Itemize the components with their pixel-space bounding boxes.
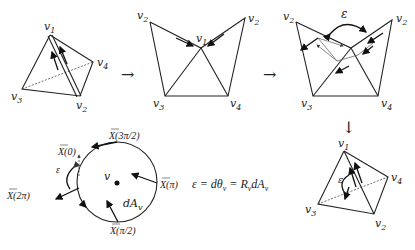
svg-text:v4: v4 [391,171,402,186]
svg-text:v1: v1 [338,137,349,152]
svg-text:v: v [104,170,111,183]
svg-text:v2: v2 [283,10,294,25]
svg-text:X(π/2): X(π/2) [109,225,136,237]
svg-text:v2: v2 [396,12,407,27]
deficit-angle-arc-icon [330,24,366,34]
arrow-down-icon: ↓ [342,118,355,137]
svg-text:ε: ε [56,164,60,175]
svg-text:v1: v1 [196,32,207,47]
diagram-svg: v1 v4 v3 v2 → v2 v2 v1 v3 v4 → ε v2 v2 [0,0,415,250]
diagram-canvas: v1 v4 v3 v2 → v2 v2 v1 v3 v4 → ε v2 v2 [0,0,415,250]
svg-text:X(π): X(π) [159,179,178,191]
svg-text:X(0): X(0) [57,146,76,158]
transport-arrow-icon [301,38,318,50]
transport-net: ε v2 v2 v3 v4 [283,7,407,112]
svg-text:dAv: dAv [123,197,143,212]
arrow-right-icon: → [263,65,276,84]
svg-text:v4: v4 [97,56,108,71]
vertex-dot [115,181,120,186]
svg-text:ε: ε [341,7,347,21]
svg-text:v2: v2 [137,9,148,24]
svg-text:X(3π/2): X(3π/2) [108,130,140,142]
svg-text:v3: v3 [305,203,316,218]
svg-text:v3: v3 [301,97,312,112]
arrow-right-icon: → [121,65,134,84]
svg-text:v3: v3 [153,97,164,112]
svg-text:v2: v2 [375,217,386,232]
unfolded-net: v2 v2 v1 v3 v4 [137,9,259,112]
tetrahedron-final: ε v1 v4 v3 v2 [305,137,402,232]
svg-text:X(2π): X(2π) [6,190,30,202]
tetrahedron-initial: v1 v4 v3 v2 [11,20,108,114]
svg-text:v2: v2 [248,12,259,27]
curvature-equation: ε = dθv = RvdAv [192,177,269,193]
svg-text:ε: ε [338,174,343,185]
transport-arrow-icon [208,34,224,46]
transport-arrow-icon [60,47,67,64]
svg-text:v3: v3 [11,90,22,105]
svg-text:v1: v1 [44,20,55,35]
svg-text:v2: v2 [76,99,87,114]
svg-text:v4: v4 [381,97,392,112]
svg-text:v4: v4 [230,97,241,112]
transport-loop-circle: v dAv ε X(0) X(3π/2) X(π) X(π/2) X(2π) [6,129,178,237]
